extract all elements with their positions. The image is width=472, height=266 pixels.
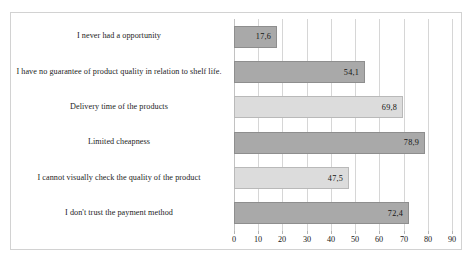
gridline-60 <box>379 19 380 231</box>
bar-value-label: 47,5 <box>328 174 348 183</box>
x-tick-label-30: 30 <box>303 235 311 244</box>
tick-mark-90 <box>452 231 453 234</box>
bar-6: 72,4 <box>234 202 409 224</box>
tick-mark-10 <box>258 231 259 234</box>
x-tick-label-0: 0 <box>232 235 236 244</box>
bar-5: 47,5 <box>234 167 349 189</box>
gridline-30 <box>307 19 308 231</box>
chart-plot-frame: I never had a opportunityI have no guara… <box>10 12 462 250</box>
plot-area: 17,654,169,878,947,572,4 <box>234 19 452 231</box>
bar-chart-figure: I never had a opportunityI have no guara… <box>0 0 472 266</box>
bar-1: 17,6 <box>234 26 277 48</box>
gridline-80 <box>428 19 429 231</box>
bar-value-label: 69,8 <box>382 103 402 112</box>
category-label: I have no guarantee of product quality i… <box>11 67 227 77</box>
bar-value-label: 17,6 <box>256 32 276 41</box>
x-tick-label-80: 80 <box>424 235 432 244</box>
bar-4: 78,9 <box>234 132 425 154</box>
gridline-40 <box>331 19 332 231</box>
x-tick-label-60: 60 <box>375 235 383 244</box>
bar-value-label: 72,4 <box>388 209 408 218</box>
x-tick-label-40: 40 <box>327 235 335 244</box>
category-label-row: I never had a opportunity <box>11 19 233 54</box>
tick-mark-40 <box>331 231 332 234</box>
bar-2: 54,1 <box>234 61 365 83</box>
category-label-row: Delivery time of the products <box>11 90 233 125</box>
tick-mark-60 <box>379 231 380 234</box>
x-tick-label-90: 90 <box>448 235 456 244</box>
tick-mark-70 <box>404 231 405 234</box>
caption-artifact-text <box>10 256 462 265</box>
gridline-90 <box>452 19 453 231</box>
category-label: Limited cheapness <box>11 137 227 147</box>
category-label-row: I don't trust the payment method <box>11 196 233 231</box>
category-label: I don't trust the payment method <box>11 208 227 218</box>
category-label: I cannot visually check the quality of t… <box>11 173 227 183</box>
tick-mark-80 <box>428 231 429 234</box>
category-label-row: Limited cheapness <box>11 125 233 160</box>
category-label-row: I have no guarantee of product quality i… <box>11 54 233 89</box>
x-tick-label-10: 10 <box>254 235 262 244</box>
category-label: Delivery time of the products <box>11 102 227 112</box>
value-axis: 0102030405060708090 <box>234 231 452 251</box>
bar-3: 69,8 <box>234 96 403 118</box>
tick-mark-30 <box>307 231 308 234</box>
tick-mark-0 <box>234 231 235 234</box>
gridline-70 <box>404 19 405 231</box>
bar-value-label: 78,9 <box>404 138 424 147</box>
x-tick-label-50: 50 <box>351 235 359 244</box>
gridline-20 <box>282 19 283 231</box>
gridline-10 <box>258 19 259 231</box>
category-axis: I never had a opportunityI have no guara… <box>11 19 233 231</box>
x-tick-label-70: 70 <box>400 235 408 244</box>
gridline-0 <box>234 19 235 231</box>
tick-mark-20 <box>282 231 283 234</box>
gridline-50 <box>355 19 356 231</box>
category-label-row: I cannot visually check the quality of t… <box>11 160 233 195</box>
category-label: I never had a opportunity <box>11 31 227 41</box>
bar-value-label: 54,1 <box>344 68 364 77</box>
tick-mark-50 <box>355 231 356 234</box>
x-tick-label-20: 20 <box>278 235 286 244</box>
